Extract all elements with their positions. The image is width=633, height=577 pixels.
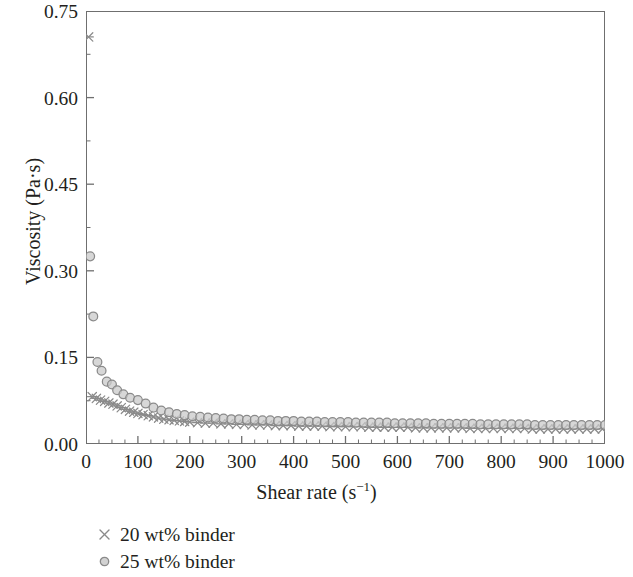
legend-label-20wt: 20 wt% binder [120,524,235,546]
x-tick-label: 1000 [586,452,625,472]
x-tick-label: 500 [331,452,360,472]
x-tick-label: 0 [81,452,91,472]
cross-marker-icon [88,527,120,542]
circle-marker-icon [88,554,120,569]
x-axis-title: Shear rate (s−1) [0,481,633,504]
x-axis-title-tail: ) [370,481,377,503]
x-tick-label: 400 [279,452,308,472]
plot-frame [86,11,605,444]
x-axis-title-exponent: −1 [356,479,370,494]
legend-label-25wt: 25 wt% binder [120,551,235,573]
x-tick-label: 700 [435,452,464,472]
x-tick-label: 100 [123,452,152,472]
y-tick-label: 0.00 [0,435,78,455]
x-tick-label: 600 [383,452,412,472]
chart-legend: 20 wt% binder 25 wt% binder [88,521,418,575]
viscosity-shear-rate-chart: 0.000.150.300.450.600.75 010020030040050… [0,0,633,577]
legend-item-20wt: 20 wt% binder [88,521,418,548]
x-axis-title-base: Shear rate (s [256,481,356,503]
y-axis-title: Viscosity (Pa·s) [22,92,45,352]
x-tick-label: 800 [487,452,516,472]
x-tick-label: 200 [175,452,204,472]
x-tick-label: 300 [227,452,256,472]
y-tick-label: 0.75 [0,2,78,22]
x-tick-label: 900 [538,452,567,472]
legend-item-25wt: 25 wt% binder [88,548,418,575]
